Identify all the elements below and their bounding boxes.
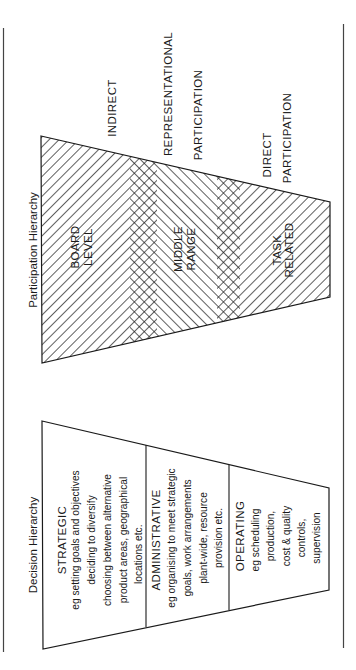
- task-related-label-2: RELATED: [283, 223, 295, 278]
- operating-line-2: production,: [265, 511, 276, 561]
- strategic-line-3: choosing between alternative: [102, 474, 113, 606]
- hierarchy-diagram: Participation Hierarchy BOARD LEVEL MIDD…: [0, 0, 356, 670]
- representational-participation-label: PARTICIPATION: [192, 70, 204, 161]
- administrative-line-3: plant-wide, resource: [198, 492, 209, 584]
- operating-line-5: supervision: [311, 512, 322, 564]
- administrative-line-2: goals, work arrangements: [182, 479, 193, 596]
- representational-label: REPRESENTATIONAL: [162, 32, 174, 156]
- middle-range-label-2: RANGE: [185, 228, 197, 271]
- operating-line-4: controls,: [296, 519, 307, 558]
- indirect-label: INDIRECT: [106, 79, 118, 137]
- task-related-label-1: TASK: [271, 235, 283, 266]
- operating-heading: OPERATING: [234, 501, 246, 571]
- direct-participation-label: PARTICIPATION: [281, 93, 293, 184]
- strategic-line-2: deciding to diversify: [86, 494, 97, 584]
- board-level-label-1: BOARD: [69, 226, 81, 269]
- operating-line-1: eg scheduling: [250, 508, 261, 571]
- decision-title: Decision Hierarchy: [27, 497, 39, 594]
- strategic-line-1: eg setting goals and objectives: [70, 470, 81, 609]
- board-level-label-2: LEVEL: [82, 228, 94, 266]
- administrative-line-1: eg organising to meet strategic: [166, 468, 177, 607]
- strategic-line-4: product areas, geographical: [118, 477, 129, 603]
- middle-range-label-1: MIDDLE: [172, 226, 184, 272]
- direct-label: DIRECT: [261, 132, 273, 177]
- operating-line-3: cost & quality: [281, 505, 292, 566]
- administrative-heading: ADMINISTRATIVE: [150, 489, 162, 590]
- strategic-line-5: locations etc.: [133, 525, 144, 584]
- participation-title: Participation Hierarchy: [27, 192, 39, 308]
- strategic-heading: STRATEGIC: [56, 506, 68, 575]
- administrative-line-4: provision etc.: [213, 508, 224, 568]
